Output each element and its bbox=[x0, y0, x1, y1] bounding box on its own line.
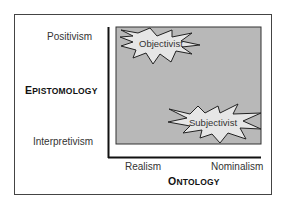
realism-label: Realism bbox=[125, 161, 161, 172]
ontology-axis-title: ONTOLOGY bbox=[168, 175, 220, 187]
ontology-title-rest: NTOLOGY bbox=[176, 177, 219, 187]
positivism-label: Positivism bbox=[47, 31, 92, 42]
epistomology-axis-title: EPISTOMOLOGY bbox=[25, 84, 98, 96]
nominalism-label: Nominalism bbox=[211, 161, 263, 172]
objectivist-label: Objectivist bbox=[139, 38, 183, 49]
epistomology-title-rest: PISTOMOLOGY bbox=[32, 86, 97, 96]
diagram-canvas bbox=[0, 0, 283, 206]
interpretivism-label: Interpretivism bbox=[33, 136, 93, 147]
subjectivist-label: Subjectivist bbox=[189, 117, 237, 128]
